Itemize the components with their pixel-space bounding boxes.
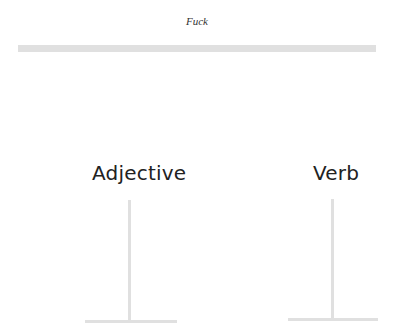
column-label-adjective: Adjective — [92, 161, 186, 185]
column-base-adjective — [85, 320, 177, 323]
column-base-verb — [288, 318, 378, 321]
column-stem-verb — [331, 199, 334, 320]
column-stem-adjective — [128, 200, 131, 322]
column-label-verb: Verb — [313, 161, 359, 185]
diagram-title: Fuck — [0, 14, 394, 28]
title-divider-bar — [18, 45, 376, 52]
